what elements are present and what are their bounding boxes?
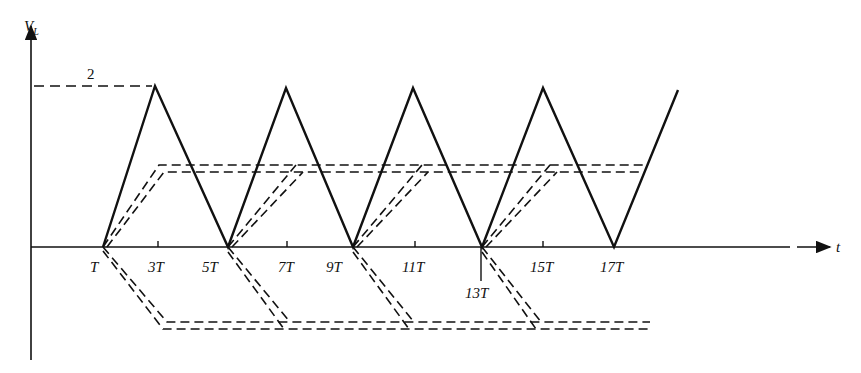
tick-label-13T: 13T [465,285,490,301]
tick-label-17T: 17T [600,259,625,275]
tick-label-15T: 15T [530,259,555,275]
lower-dashed-paths [103,247,650,329]
tick-label-5T: 5T [202,259,220,275]
x-axis-label: t [836,239,841,255]
tick-label-T: T [90,259,100,275]
triangle-waveform [103,86,678,247]
waveform-diagram: VL 2 t T 3T 5T 7T 9T 11T 13T 15T 17T [0,0,861,373]
peak-value-label: 2 [87,66,95,82]
tick-label-11T: 11T [402,259,426,275]
tick-label-7T: 7T [278,259,296,275]
tick-label-3T: 3T [147,259,166,275]
upper-dashed-paths [103,165,645,247]
tick-label-9T: 9T [326,259,344,275]
